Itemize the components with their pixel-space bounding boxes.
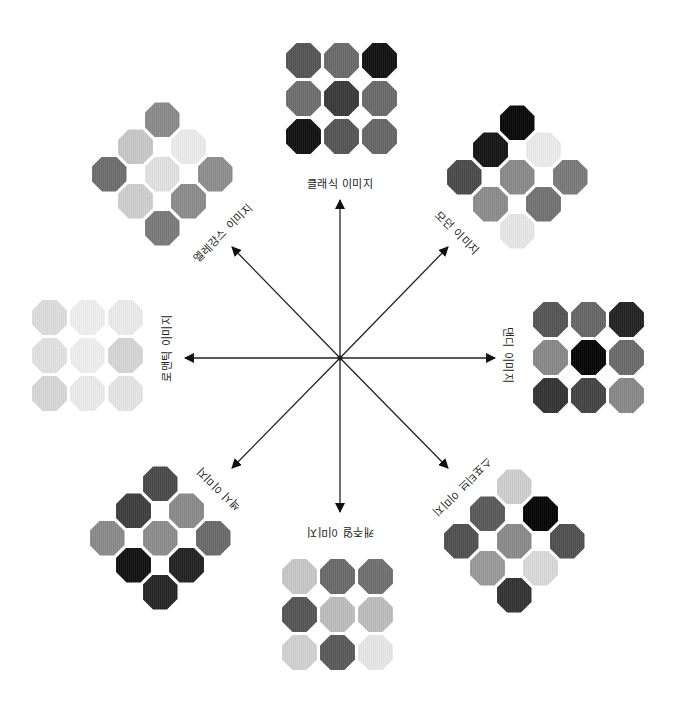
color-swatch [609, 340, 644, 375]
color-swatch [286, 81, 321, 116]
color-swatch [550, 524, 585, 559]
color-swatch [470, 551, 505, 586]
color-swatch [362, 43, 397, 78]
color-swatch [32, 338, 67, 373]
color-swatch [358, 635, 393, 670]
color-swatch [500, 214, 535, 249]
color-swatch [32, 300, 67, 335]
arrow-sportive [340, 358, 448, 468]
color-swatch [70, 338, 105, 373]
color-swatch [447, 160, 482, 195]
color-swatch [533, 378, 568, 413]
color-swatch [497, 524, 532, 559]
color-swatch [118, 129, 153, 164]
color-swatch [358, 597, 393, 632]
color-swatch [324, 119, 359, 154]
color-swatch [470, 496, 505, 531]
color-swatch [92, 157, 127, 192]
color-swatch [143, 466, 178, 501]
color-swatch [108, 376, 143, 411]
color-swatch [609, 378, 644, 413]
color-swatch [171, 184, 206, 219]
color-swatch [571, 378, 606, 413]
color-swatch [571, 340, 606, 375]
color-swatch [444, 524, 479, 559]
label-romantic: 로맨틱 이미지 [158, 315, 174, 382]
color-swatch [533, 302, 568, 337]
color-swatch [143, 575, 178, 610]
label-dandy: 댄디 이미지 [501, 327, 517, 384]
color-swatch [282, 597, 317, 632]
color-swatch [32, 376, 67, 411]
color-swatch [362, 119, 397, 154]
color-swatch [324, 43, 359, 78]
arrow-modern [340, 247, 448, 358]
color-swatch [108, 300, 143, 335]
color-swatch [526, 132, 561, 167]
color-swatch [500, 160, 535, 195]
color-swatch [169, 493, 204, 528]
color-swatch [282, 559, 317, 594]
color-swatch [362, 81, 397, 116]
color-swatch [533, 340, 568, 375]
color-swatch [286, 119, 321, 154]
label-classic: 클래식 이미지 [307, 175, 374, 191]
color-swatch [282, 635, 317, 670]
color-swatch [116, 493, 151, 528]
label-casual: 캐주얼 이미지 [307, 525, 374, 541]
color-swatch [473, 132, 508, 167]
color-swatch [523, 496, 558, 531]
color-swatch [90, 521, 125, 556]
color-swatch [497, 578, 532, 613]
color-swatch [145, 102, 180, 137]
color-swatch [118, 184, 153, 219]
color-swatch [526, 187, 561, 222]
color-swatch [497, 469, 532, 504]
color-swatch [171, 129, 206, 164]
color-swatch [324, 81, 359, 116]
color-swatch [108, 338, 143, 373]
color-swatch [523, 551, 558, 586]
color-swatch [116, 548, 151, 583]
color-swatch [145, 211, 180, 246]
color-swatch [145, 157, 180, 192]
color-swatch [500, 105, 535, 140]
color-swatch [286, 43, 321, 78]
color-swatch [320, 635, 355, 670]
color-swatch [571, 302, 606, 337]
color-swatch [143, 521, 178, 556]
color-swatch [198, 157, 233, 192]
color-swatch [609, 302, 644, 337]
color-swatch [320, 597, 355, 632]
color-swatch [196, 521, 231, 556]
color-swatch [169, 548, 204, 583]
arrow-elegance [232, 247, 340, 358]
color-swatch [473, 187, 508, 222]
color-swatch [358, 559, 393, 594]
color-swatch [70, 376, 105, 411]
color-swatch [70, 300, 105, 335]
color-swatch [553, 160, 588, 195]
color-swatch [320, 559, 355, 594]
image-map-diagram: 클래식 이미지 모던 이미지 댄디 이미지 스포티브 이미지 캐주얼 이미지 섹… [0, 0, 680, 709]
arrow-sexy [232, 358, 340, 468]
